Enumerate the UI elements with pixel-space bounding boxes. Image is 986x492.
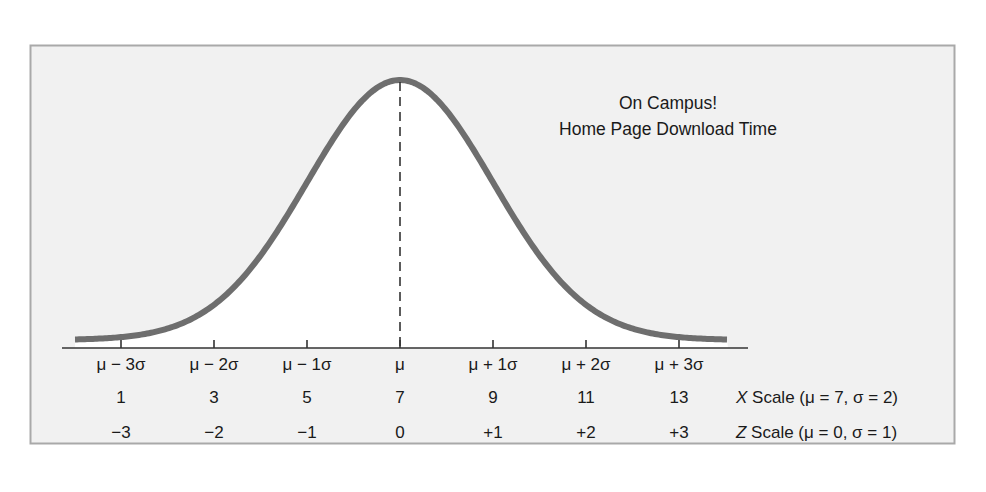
x-scale-value: 3 (209, 388, 218, 407)
x-scale-variable: X (735, 388, 748, 407)
sigma-label: μ − 2σ (189, 355, 239, 374)
normal-distribution-figure: On Campus! Home Page Download Time μ − 3… (0, 0, 986, 492)
x-scale-value: 13 (670, 388, 689, 407)
z-scale-variable: Z (735, 423, 747, 442)
z-scale-value: +3 (669, 423, 688, 442)
z-scale-value: 0 (395, 423, 404, 442)
x-scale-text: Scale (μ = 7, σ = 2) (747, 388, 898, 407)
sigma-label: μ (395, 355, 405, 374)
z-scale-value: −1 (297, 423, 316, 442)
z-scale-text: Scale (μ = 0, σ = 1) (746, 423, 897, 442)
sigma-label: μ + 3σ (654, 355, 704, 374)
z-scale-value: −3 (111, 423, 130, 442)
sigma-label: μ − 3σ (96, 355, 146, 374)
x-scale-value: 5 (302, 388, 311, 407)
sigma-label: μ + 1σ (468, 355, 518, 374)
title-line-1: On Campus! (619, 93, 717, 113)
sigma-label: μ − 1σ (282, 355, 332, 374)
x-scale-value: 7 (395, 388, 404, 407)
z-scale-value: +2 (576, 423, 595, 442)
x-scale-label: X Scale (μ = 7, σ = 2) (735, 388, 898, 407)
sigma-label: μ + 2σ (561, 355, 611, 374)
title-line-2: Home Page Download Time (559, 119, 777, 139)
x-scale-value: 1 (116, 388, 125, 407)
z-scale-label: Z Scale (μ = 0, σ = 1) (735, 423, 897, 442)
x-scale-value: 9 (488, 388, 497, 407)
x-scale-value: 11 (577, 388, 595, 407)
z-scale-value: +1 (483, 423, 502, 442)
z-scale-value: −2 (204, 423, 223, 442)
